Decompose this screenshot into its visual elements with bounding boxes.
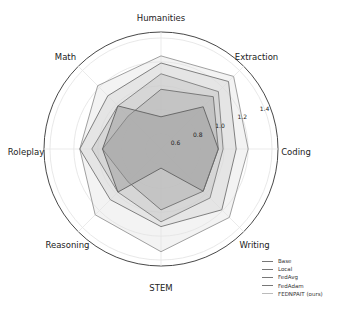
radial-tick-label: 1.0 bbox=[215, 122, 225, 129]
legend-item-fedadam: FedAdam bbox=[262, 282, 323, 290]
category-label: STEM bbox=[149, 283, 172, 293]
legend-swatch bbox=[262, 269, 273, 270]
radial-tick-label: 0.6 bbox=[171, 139, 181, 146]
legend-item-base: Base bbox=[262, 257, 323, 265]
category-label: Writing bbox=[239, 240, 269, 250]
legend-item-local: Local bbox=[262, 265, 323, 273]
radial-tick-label: 1.4 bbox=[260, 105, 270, 112]
category-label: Extraction bbox=[235, 52, 278, 62]
radar-series bbox=[80, 56, 248, 252]
legend-item-fednpait: FEDNPAIT (ours) bbox=[262, 290, 323, 298]
legend-item-fedavg: FedAvg bbox=[262, 273, 323, 281]
legend-swatch bbox=[262, 277, 273, 278]
legend-swatch bbox=[262, 261, 273, 262]
category-label: Coding bbox=[281, 147, 311, 157]
category-label: Reasoning bbox=[45, 240, 89, 250]
category-label: Math bbox=[55, 52, 76, 62]
category-label: Roleplay bbox=[8, 147, 44, 157]
legend-swatch bbox=[262, 285, 273, 286]
radial-tick-label: 0.8 bbox=[193, 131, 203, 138]
category-label: Humanities bbox=[137, 13, 186, 23]
radial-tick-label: 1.2 bbox=[237, 113, 247, 120]
legend-swatch bbox=[262, 293, 273, 294]
legend: Base Local FedAvg FedAdam FEDNPAIT (ours… bbox=[262, 257, 323, 298]
